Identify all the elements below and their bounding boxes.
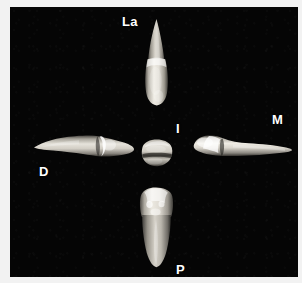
photographic-plate: La I M D P [10,7,298,277]
view-label-labial: La [122,15,138,28]
tooth-distal-view-icon [31,128,137,168]
tooth-palatal-view-icon [132,185,180,269]
figure-root: La I M D P [0,0,302,283]
tooth-incisal-view-icon [138,136,176,170]
view-label-palatal: P [176,263,185,276]
view-label-mesial: M [272,113,283,126]
view-label-incisal: I [176,122,180,135]
tooth-mesial-view-icon [187,128,295,168]
view-label-distal: D [39,165,49,178]
tooth-labial-view-icon [134,18,180,110]
